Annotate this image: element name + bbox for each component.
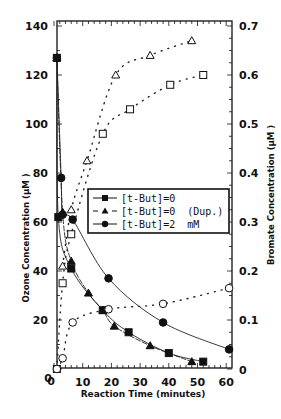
filled-circle-icon <box>225 346 233 354</box>
open-circle-icon <box>105 305 113 313</box>
filled-circle-icon <box>59 211 67 219</box>
filled-circle-icon <box>57 174 65 182</box>
open-square-icon <box>99 130 106 137</box>
filled-circle-icon <box>53 54 61 62</box>
x-tick-label: 10 <box>75 376 91 389</box>
y-tick-label: 20 <box>33 314 49 327</box>
y2-tick-label: 0.1 <box>239 314 259 327</box>
open-triangle-icon <box>146 51 154 58</box>
open-circle-icon <box>53 365 61 373</box>
x-tick-label: 60 <box>219 376 235 389</box>
y-tick-label: 60 <box>33 216 49 229</box>
y2-tick-label: 0.7 <box>239 20 259 33</box>
open-circle-icon <box>69 319 77 327</box>
open-square-icon <box>127 106 134 113</box>
x-axis-title: Reaction Time (minutes) <box>81 389 206 399</box>
y2-tick-label: 0.2 <box>239 265 259 278</box>
x-tick-label: 40 <box>161 376 177 389</box>
y2-tick-label: 0.6 <box>239 69 259 82</box>
filled-circle-icon <box>102 221 108 227</box>
filled-square-icon <box>165 350 172 357</box>
filled-circle-icon <box>69 216 77 224</box>
open-square-icon <box>68 231 75 238</box>
legend: [t-But]=0 [t-But]=0 (Dup.) [t-But]=2 mM <box>88 189 232 236</box>
open-triangle-icon <box>67 206 75 213</box>
x-tick-label: 30 <box>132 376 148 389</box>
filled-triangle-icon <box>67 257 75 264</box>
filled-square-icon <box>102 195 108 201</box>
filled-circle-icon <box>105 275 113 283</box>
open-square-icon <box>59 280 66 287</box>
open-circle-icon <box>59 354 67 362</box>
filled-square-icon <box>200 358 207 365</box>
filled-triangle-icon <box>110 322 118 329</box>
y2-axis-title: Bromate Concentration (µM ) <box>266 125 276 265</box>
chart: 102030405060002040608010012014000.10.20.… <box>0 0 281 419</box>
y-tick-label: 100 <box>25 118 48 131</box>
filled-circle-icon <box>159 319 167 327</box>
open-triangle-icon <box>83 157 91 164</box>
y2-tick-label: 0.5 <box>239 118 259 131</box>
legend-label: [t-But]=0 <box>121 193 175 204</box>
y-axis-title: Ozone Concentration (µM ) <box>21 173 31 302</box>
y2-tick-label: 0.4 <box>239 167 259 180</box>
y-tick-label: 40 <box>33 265 49 278</box>
open-square-icon <box>167 81 174 88</box>
x-tick-label: 50 <box>190 376 206 389</box>
x-tick-label: 0 <box>47 375 55 388</box>
open-circle-icon <box>225 284 233 292</box>
filled-square-icon <box>68 265 75 272</box>
y2-tick-label: 0.3 <box>239 216 259 229</box>
y-tick-label: 120 <box>25 69 48 82</box>
open-triangle-icon <box>112 71 120 78</box>
open-circle-icon <box>159 300 167 308</box>
legend-label: [t-But]=0 (Dup.) <box>121 206 223 217</box>
y-tick-label: 140 <box>25 20 48 33</box>
series-line <box>57 288 229 369</box>
y2-tick-label: 0 <box>239 364 247 377</box>
y-tick-label: 80 <box>33 167 49 180</box>
filled-square-icon <box>125 329 132 336</box>
legend-label: [t-But]=2 mM <box>121 219 199 230</box>
open-triangle-icon <box>188 37 196 44</box>
x-tick-label: 20 <box>104 376 120 389</box>
open-square-icon <box>200 72 207 79</box>
